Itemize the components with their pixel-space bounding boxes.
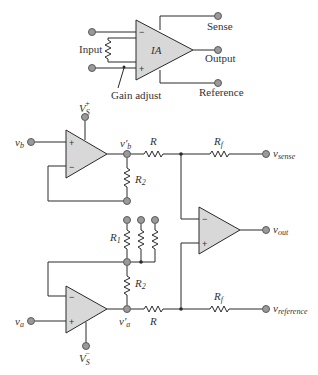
input-terminal-bottom [89,65,96,72]
v-reference-label: vreference [273,302,308,316]
r-bottom-label: R [149,315,157,327]
va-prime-node [124,306,131,313]
gain-adjust-label: Gain adjust [111,89,161,101]
input-label: Input [79,43,102,55]
sense-terminal [215,13,222,20]
reference-path: Rf vreference [179,290,308,316]
ia-label: IA [150,44,162,56]
sense-label: Sense [207,20,233,32]
va-label: va [15,315,24,329]
output-opamp: − + vout [181,207,289,309]
ia-block: − + IA Input Gain adjust Sense Output Re… [79,13,244,102]
r-top-resistor [144,151,163,157]
r-bottom-resistor [144,306,163,312]
svg-text:+: + [69,138,74,148]
v-sense-terminal [263,151,270,158]
v-sense-label: vsense [273,147,296,161]
r2-top-resistor [124,168,130,187]
vb-prime-node [124,151,131,158]
vb-prime-label: v′b [120,137,131,151]
va-prime-label: v′a [119,315,130,329]
buffer-a: R2 − + v′a va VS− R [15,262,181,367]
rf-bottom-label: Rf [213,290,225,304]
r1-network: R1 [109,217,159,266]
svg-text:+: + [69,317,74,327]
ia-minus: − [139,27,144,37]
vb-label: vb [15,136,24,150]
ia-plus: + [139,64,144,74]
gain-resistor [105,38,111,62]
rf-bottom-resistor [210,306,229,312]
svg-text:−: − [69,292,74,302]
r1-label: R1 [109,231,121,245]
rf-top-label: Rf [213,135,225,149]
vb-terminal [28,139,35,146]
v-reference-terminal [263,306,270,313]
rf-top-resistor [210,151,229,157]
sense-path: Rf vsense [179,135,295,219]
vs-plus-terminal [82,114,89,121]
svg-text:+: + [202,239,207,249]
r-top-label: R [149,135,157,147]
buffer-b: VS+ + − vb v′b R2 R [15,99,181,205]
r2-bottom-label: R2 [134,277,146,291]
svg-text:−: − [69,162,74,172]
vs-minus-label: VS− [79,349,90,367]
output-label: Output [205,52,236,64]
r2-bottom-resistor [124,276,130,295]
instrumentation-amplifier-diagram: − + IA Input Gain adjust Sense Output Re… [0,0,318,375]
va-terminal [28,318,35,325]
ia-amplifier [136,20,193,80]
r2-top-label: R2 [134,173,146,187]
r1-resistor [124,230,130,249]
v-out-terminal [263,227,270,234]
reference-label: Reference [199,86,244,98]
v-out-label: vout [273,223,289,237]
svg-text:−: − [202,214,207,224]
input-terminal-top [89,29,96,36]
